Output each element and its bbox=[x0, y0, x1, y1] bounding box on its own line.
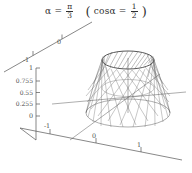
cos-expression: cosα bbox=[94, 6, 116, 16]
pi-denominator: 3 bbox=[66, 12, 73, 20]
pi-numerator: π bbox=[66, 3, 73, 11]
y-axis-group: -1 0 bbox=[4, 22, 92, 72]
z-axis-label-055: 0.55 bbox=[20, 89, 34, 96]
pi-over-three-fraction: π 3 bbox=[66, 3, 73, 20]
half-numerator: 1 bbox=[131, 3, 138, 11]
x-axis-group: -1 0 1 bbox=[20, 122, 182, 160]
z-axis-group: 1 0.755 0.55 0.255 0 bbox=[16, 64, 40, 140]
z-axis-label-1: 1 bbox=[29, 64, 33, 72]
x-axis-label-0: 0 bbox=[92, 132, 96, 140]
x-axis-line bbox=[20, 128, 182, 160]
math-figure: α = π 3 ( cosα = 1 2 ) -1 0 bbox=[0, 0, 192, 173]
alpha-symbol: α bbox=[45, 6, 51, 16]
open-paren: ( bbox=[85, 4, 90, 19]
half-denominator: 2 bbox=[131, 12, 138, 20]
cutting-plane-line bbox=[52, 92, 186, 104]
z-axis-label-0: 0 bbox=[29, 112, 33, 120]
y-axis-label-minus1: -1 bbox=[23, 56, 29, 64]
plot-canvas: -1 0 1 0.755 0.55 0.255 0 -1 0 1 bbox=[0, 0, 192, 173]
cos-equals-sign: = bbox=[119, 6, 127, 16]
y-axis-line bbox=[4, 22, 92, 72]
hyperboloid-surface bbox=[52, 51, 186, 140]
y-axis-label-0: 0 bbox=[57, 38, 61, 46]
x-axis-label-minus1: -1 bbox=[44, 122, 50, 130]
title-formula: α = π 3 ( cosα = 1 2 ) bbox=[0, 3, 192, 20]
close-paren: ) bbox=[142, 4, 147, 19]
z-axis-label-0255: 0.255 bbox=[16, 100, 33, 107]
one-half-fraction: 1 2 bbox=[131, 3, 138, 20]
equals-sign: = bbox=[54, 6, 62, 16]
z-axis-label-0755: 0.755 bbox=[16, 77, 33, 84]
generator-diagonal-line bbox=[70, 74, 160, 140]
x-axis-label-1: 1 bbox=[137, 141, 141, 149]
